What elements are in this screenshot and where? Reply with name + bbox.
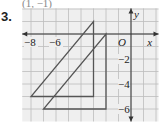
x-axis-label: x [146,36,152,48]
x-tick-label: −8 [24,36,36,48]
y-tick-label: −2 [118,53,130,65]
y-tick-label: −6 [118,103,130,115]
coordinate-grid: −8−6−2−4−6Oxy [0,0,159,132]
y-tick-label: −4 [118,78,130,90]
x-tick-label: −6 [49,36,61,48]
origin-label: O [118,36,126,48]
y-axis-label: y [133,8,139,20]
